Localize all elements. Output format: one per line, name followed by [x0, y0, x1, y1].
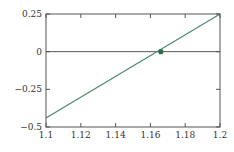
- root-marker: [158, 49, 163, 54]
- x-tick-label: 1.16: [140, 130, 160, 140]
- x-tick-labels: 1.11.121.141.161.181.2: [39, 130, 227, 140]
- x-tick-label: 1.2: [213, 130, 227, 140]
- line-chart: 1.11.121.141.161.181.2 0.250−0.25−0.5: [0, 0, 234, 152]
- x-tick-label: 1.18: [175, 130, 195, 140]
- y-tick-labels: 0.250−0.25−0.5: [14, 9, 42, 132]
- y-tick-label: 0: [36, 47, 42, 57]
- y-tick-label: 0.25: [22, 9, 42, 19]
- y-tick-label: −0.25: [14, 84, 42, 94]
- data-line: [46, 14, 220, 118]
- y-tick-label: −0.5: [20, 122, 42, 132]
- x-tick-label: 1.12: [71, 130, 91, 140]
- axis-ticks: [46, 14, 220, 127]
- x-tick-label: 1.14: [106, 130, 126, 140]
- plot-frame: [46, 14, 220, 127]
